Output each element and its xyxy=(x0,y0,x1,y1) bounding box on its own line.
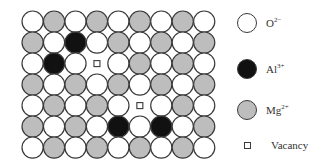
oxygen-ion xyxy=(65,137,86,158)
oxygen-ion xyxy=(129,32,150,53)
oxygen-ion xyxy=(43,74,64,95)
aluminum-ion xyxy=(43,53,64,74)
magnesium-ion xyxy=(22,116,43,137)
magnesium-ion xyxy=(129,53,150,74)
magnesium-ion xyxy=(172,137,193,158)
legend-item-oxygen: O2− xyxy=(237,11,281,35)
magnesium-ion xyxy=(86,11,107,32)
oxygen-ion xyxy=(129,116,150,137)
legend-label-vacancy: Vacancy xyxy=(271,139,308,151)
legend-label-aluminum: Al3+ xyxy=(266,63,284,75)
oxygen-ion xyxy=(65,53,86,74)
oxygen-ion xyxy=(22,95,43,116)
vacancy-site xyxy=(94,61,100,67)
magnesium-ion xyxy=(22,32,43,53)
magnesium-ion xyxy=(86,137,107,158)
oxygen-ion xyxy=(108,53,129,74)
magnesium-ion xyxy=(151,32,172,53)
oxygen-ion xyxy=(22,137,43,158)
oxygen-ion xyxy=(22,53,43,74)
oxygen-ion xyxy=(108,11,129,32)
oxygen-ion xyxy=(194,11,215,32)
oxygen-ion xyxy=(172,74,193,95)
magnesium-ion-icon xyxy=(237,100,257,120)
oxygen-ion xyxy=(172,116,193,137)
magnesium-ion xyxy=(172,95,193,116)
magnesium-ion xyxy=(65,116,86,137)
oxygen-ion xyxy=(108,137,129,158)
aluminum-ion xyxy=(151,116,172,137)
aluminum-ion xyxy=(65,32,86,53)
oxygen-ion xyxy=(151,95,172,116)
magnesium-ion xyxy=(172,11,193,32)
oxygen-ion xyxy=(86,32,107,53)
crystal-lattice xyxy=(0,0,230,166)
magnesium-ion xyxy=(194,74,215,95)
magnesium-ion xyxy=(194,116,215,137)
aluminum-ion xyxy=(108,116,129,137)
magnesium-ion xyxy=(172,53,193,74)
oxygen-ion xyxy=(129,74,150,95)
magnesium-ion xyxy=(151,74,172,95)
oxygen-ion xyxy=(108,95,129,116)
magnesium-ion xyxy=(194,32,215,53)
legend-item-magnesium: Mg2+ xyxy=(237,98,289,122)
oxygen-ion xyxy=(86,116,107,137)
oxygen-ion xyxy=(172,32,193,53)
magnesium-ion xyxy=(65,74,86,95)
oxygen-ion xyxy=(151,137,172,158)
magnesium-ion xyxy=(86,95,107,116)
legend-label-oxygen: O2− xyxy=(266,17,281,29)
magnesium-ion xyxy=(43,137,64,158)
legend-item-vacancy: Vacancy xyxy=(244,133,308,157)
legend-label-magnesium: Mg2+ xyxy=(266,104,289,116)
oxygen-ion-icon xyxy=(237,13,257,33)
oxygen-ion xyxy=(43,32,64,53)
oxygen-ion xyxy=(194,95,215,116)
magnesium-ion xyxy=(108,32,129,53)
oxygen-ion xyxy=(151,11,172,32)
magnesium-ion xyxy=(43,11,64,32)
magnesium-ion xyxy=(43,95,64,116)
legend-item-aluminum: Al3+ xyxy=(237,57,284,81)
aluminum-ion-icon xyxy=(237,59,257,79)
oxygen-ion xyxy=(151,53,172,74)
oxygen-ion xyxy=(22,11,43,32)
oxygen-ion xyxy=(43,116,64,137)
oxygen-ion xyxy=(65,11,86,32)
oxygen-ion xyxy=(194,53,215,74)
oxygen-ion xyxy=(194,137,215,158)
magnesium-ion xyxy=(108,74,129,95)
magnesium-ion xyxy=(129,137,150,158)
vacancy-icon xyxy=(244,142,251,149)
oxygen-ion xyxy=(65,95,86,116)
vacancy-site xyxy=(137,103,143,109)
magnesium-ion xyxy=(22,74,43,95)
magnesium-ion xyxy=(129,11,150,32)
oxygen-ion xyxy=(86,74,107,95)
